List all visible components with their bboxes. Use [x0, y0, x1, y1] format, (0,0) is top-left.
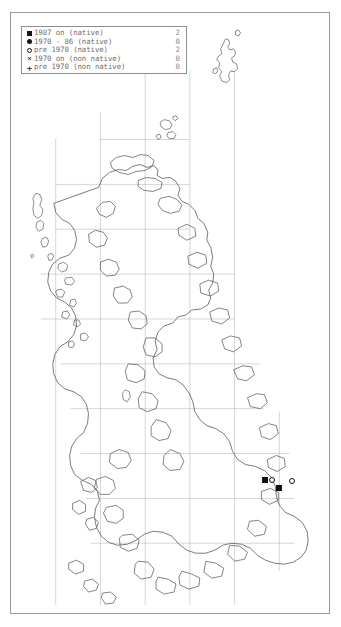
coastline-outer-hebrides	[31, 193, 54, 260]
coastline-shetland	[213, 30, 241, 83]
open-circle-icon	[25, 48, 34, 53]
plus-icon: +	[25, 64, 34, 72]
grid-lines	[41, 71, 294, 605]
coastline-isle-of-man	[122, 390, 130, 402]
record-marker-filled-square[interactable]	[262, 477, 268, 483]
filled-square-icon	[25, 31, 34, 36]
legend-item-count: 0	[176, 63, 183, 72]
legend-item-label: pre 1970 (non native)	[34, 63, 176, 72]
coastline-orkney	[156, 116, 178, 140]
record-marker-filled-square[interactable]	[276, 485, 282, 491]
record-marker-open-circle[interactable]	[289, 478, 295, 484]
coastline-inner-hebrides	[56, 262, 89, 348]
coastline-cornwall-detail	[69, 560, 117, 604]
cross-x-icon: ✕	[25, 55, 34, 63]
map-frame: 1987 on (native) 2 1970 - 86 (native) 0 …	[10, 12, 330, 614]
record-marker-open-circle[interactable]	[269, 477, 275, 483]
filled-circle-icon	[25, 39, 34, 44]
map-legend: 1987 on (native) 2 1970 - 86 (native) 0 …	[21, 26, 187, 74]
distribution-map-canvas	[11, 13, 329, 613]
legend-row: + pre 1970 (non native) 0	[25, 63, 183, 72]
coastline-wales-detail	[73, 477, 99, 530]
coastline-britain-detail	[89, 155, 286, 595]
